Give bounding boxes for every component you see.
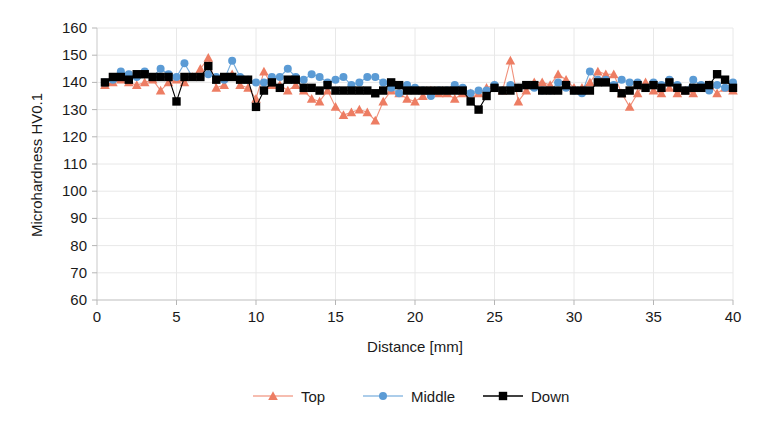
data-point-square (180, 73, 188, 81)
data-point-square (522, 81, 530, 89)
data-point-square (705, 81, 713, 89)
data-point-square (435, 86, 443, 94)
data-point-square (411, 86, 419, 94)
data-point-square (133, 70, 141, 78)
data-point-square (729, 84, 737, 92)
data-point-square (220, 73, 228, 81)
x-axis-tick-label: 20 (407, 308, 424, 325)
data-point-square (546, 86, 554, 94)
data-point-square (451, 86, 459, 94)
data-point-square (594, 78, 602, 86)
x-axis-tick-label: 40 (725, 308, 742, 325)
data-point-circle (300, 76, 308, 84)
data-point-square (244, 75, 252, 83)
legend-label-middle: Middle (411, 388, 455, 405)
data-point-square (538, 86, 546, 94)
data-point-circle (228, 57, 236, 65)
x-axis-tick-label: 0 (93, 308, 101, 325)
data-point-square (268, 78, 276, 86)
data-point-circle (308, 70, 316, 78)
data-point-square (292, 75, 300, 83)
data-point-square (649, 81, 657, 89)
data-point-circle (157, 65, 165, 73)
data-point-square (610, 84, 618, 92)
data-point-square (276, 84, 284, 92)
data-point-square (466, 97, 474, 105)
y-axis-tick-label: 80 (70, 237, 87, 254)
data-point-square (331, 86, 339, 94)
data-point-square (625, 86, 633, 94)
data-point-circle (371, 73, 379, 81)
data-point-square (443, 86, 451, 94)
data-point-circle (363, 73, 371, 81)
data-point-circle (721, 84, 729, 92)
data-point-square (602, 78, 610, 86)
data-point-circle (173, 73, 181, 81)
data-point-square (212, 75, 220, 83)
data-point-circle (284, 65, 292, 73)
x-axis-tick-label: 5 (172, 308, 180, 325)
data-point-circle (467, 89, 475, 97)
data-point-square (172, 97, 180, 105)
data-point-circle (395, 89, 403, 97)
data-point-square (562, 81, 570, 89)
data-point-square (323, 81, 331, 89)
data-point-circle (475, 87, 483, 95)
x-axis-tick-label: 15 (327, 308, 344, 325)
data-point-circle (554, 78, 562, 86)
data-point-square (578, 86, 586, 94)
data-point-square (499, 392, 507, 400)
y-axis-tick-label: 70 (70, 264, 87, 281)
data-point-square (633, 81, 641, 89)
data-point-square (697, 84, 705, 92)
y-axis-title: Microhardness HV0.1 (28, 93, 45, 237)
data-point-square (300, 84, 308, 92)
data-point-square (395, 81, 403, 89)
data-point-circle (276, 73, 284, 81)
data-point-square (371, 89, 379, 97)
data-point-square (641, 84, 649, 92)
data-point-square (657, 84, 665, 92)
data-point-square (554, 86, 562, 94)
data-point-square (586, 86, 594, 94)
data-point-square (307, 84, 315, 92)
data-point-square (713, 70, 721, 78)
data-point-square (681, 86, 689, 94)
data-point-square (618, 89, 626, 97)
data-point-circle (689, 76, 697, 84)
data-point-square (101, 78, 109, 86)
chart-background (0, 0, 759, 428)
data-point-circle (379, 78, 387, 86)
data-point-square (482, 92, 490, 100)
legend-label-down: Down (531, 388, 569, 405)
data-point-square (514, 84, 522, 92)
data-point-square (164, 73, 172, 81)
x-axis-title: Distance [mm] (367, 338, 463, 355)
data-point-square (490, 84, 498, 92)
data-point-circle (586, 68, 594, 76)
y-axis-tick-label: 90 (70, 209, 87, 226)
data-point-square (117, 73, 125, 81)
microhardness-line-chart: 60708090100110120130140150160 0510152025… (0, 0, 759, 428)
data-point-square (339, 86, 347, 94)
data-point-square (196, 73, 204, 81)
data-point-square (156, 73, 164, 81)
y-axis-tick-label: 120 (62, 128, 87, 145)
data-point-square (355, 86, 363, 94)
data-point-square (665, 78, 673, 86)
data-point-square (721, 75, 729, 83)
data-point-circle (252, 78, 260, 86)
data-point-square (419, 86, 427, 94)
data-point-square (474, 105, 482, 113)
data-point-square (506, 86, 514, 94)
x-axis-tick-label: 30 (566, 308, 583, 325)
data-point-square (403, 86, 411, 94)
y-axis-tick-label: 150 (62, 46, 87, 63)
data-point-circle (316, 73, 324, 81)
data-point-square (387, 78, 395, 86)
data-point-square (236, 75, 244, 83)
y-axis-tick-label: 140 (62, 73, 87, 90)
data-point-square (689, 84, 697, 92)
y-axis-tick-label: 60 (70, 291, 87, 308)
data-point-square (228, 73, 236, 81)
